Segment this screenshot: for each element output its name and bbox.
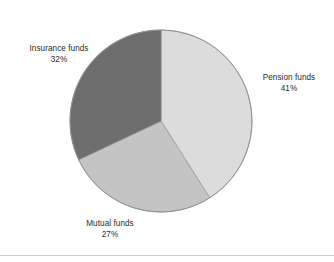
pie-chart-figure: Insurance funds 32% Pension funds 41% Mu…: [0, 0, 334, 262]
footer-divider: [0, 255, 334, 256]
pie-label-pension-funds-value: 41%: [246, 84, 332, 95]
pie-label-insurance-funds: Insurance funds 32%: [10, 44, 108, 65]
pie-label-pension-funds: Pension funds 41%: [246, 73, 332, 94]
pie-label-mutual-funds-value: 27%: [61, 230, 159, 241]
pie-label-pension-funds-name: Pension funds: [246, 73, 332, 84]
pie-label-mutual-funds: Mutual funds 27%: [61, 219, 159, 240]
pie-label-insurance-funds-name: Insurance funds: [10, 44, 108, 55]
pie-chart-graphic: [0, 0, 334, 262]
pie-label-insurance-funds-value: 32%: [10, 55, 108, 66]
pie-label-mutual-funds-name: Mutual funds: [61, 219, 159, 230]
